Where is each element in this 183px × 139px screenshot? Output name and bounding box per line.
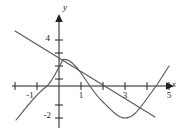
x-tick-label-5: 5 <box>161 90 177 100</box>
x-tick-label-3: 3 <box>117 90 133 100</box>
x-axis-label: x <box>172 79 176 89</box>
x-tick-label-1: 1 <box>73 90 89 100</box>
curve-tangent-line <box>15 31 155 117</box>
plot-canvas <box>0 0 183 139</box>
y-axis-label: y <box>63 2 67 12</box>
y-tick-label-4: 4 <box>38 33 50 43</box>
y-tick-label-neg2: -2 <box>33 110 51 120</box>
graph-figure: y x -1 1 3 5 4 -2 <box>0 0 183 139</box>
x-tick-label-neg1: -1 <box>22 90 38 100</box>
x-axis <box>12 82 174 89</box>
